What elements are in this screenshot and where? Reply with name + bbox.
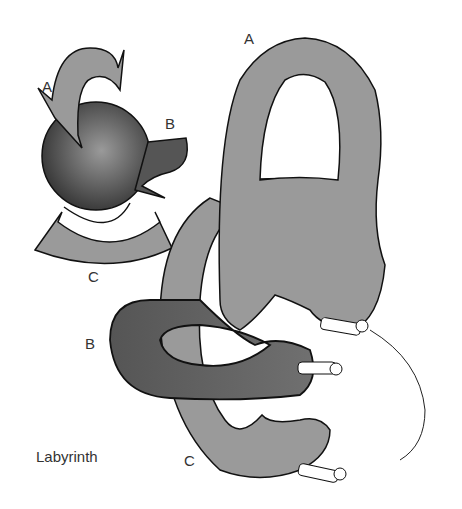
labyrinth-canals — [110, 38, 425, 483]
canal-label-c: C — [184, 452, 195, 469]
inset-arrow-c — [35, 212, 172, 264]
canal-b — [110, 300, 313, 399]
inset-label-a: A — [42, 78, 52, 95]
inset-label-b: B — [165, 115, 175, 132]
canal-label-b: B — [85, 335, 95, 352]
inset-rotation-diagram — [35, 48, 187, 264]
diagram-artwork — [0, 0, 462, 509]
nerve-bundle-c — [298, 463, 346, 483]
nerve-bundle-b — [298, 362, 342, 375]
canal-label-a: A — [244, 30, 254, 47]
canal-a — [219, 38, 385, 332]
labyrinth-diagram: A B C A B C Labyrinth — [0, 0, 462, 509]
inset-label-c: C — [88, 268, 99, 285]
caption: Labyrinth — [36, 448, 98, 465]
